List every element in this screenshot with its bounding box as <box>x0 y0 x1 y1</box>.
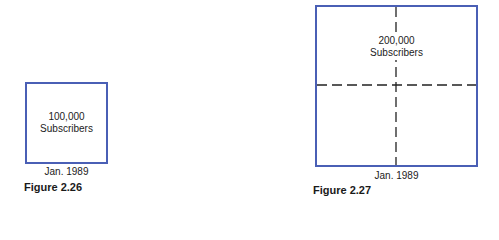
figure-caption: Figure 2.27 <box>313 184 371 197</box>
large-box-date: Jan. 1989 <box>366 170 427 182</box>
large-box-label: 200,000 Subscribers <box>366 34 427 60</box>
large-box-unit: Subscribers <box>366 47 427 59</box>
large-box-count: 200,000 <box>366 35 427 47</box>
